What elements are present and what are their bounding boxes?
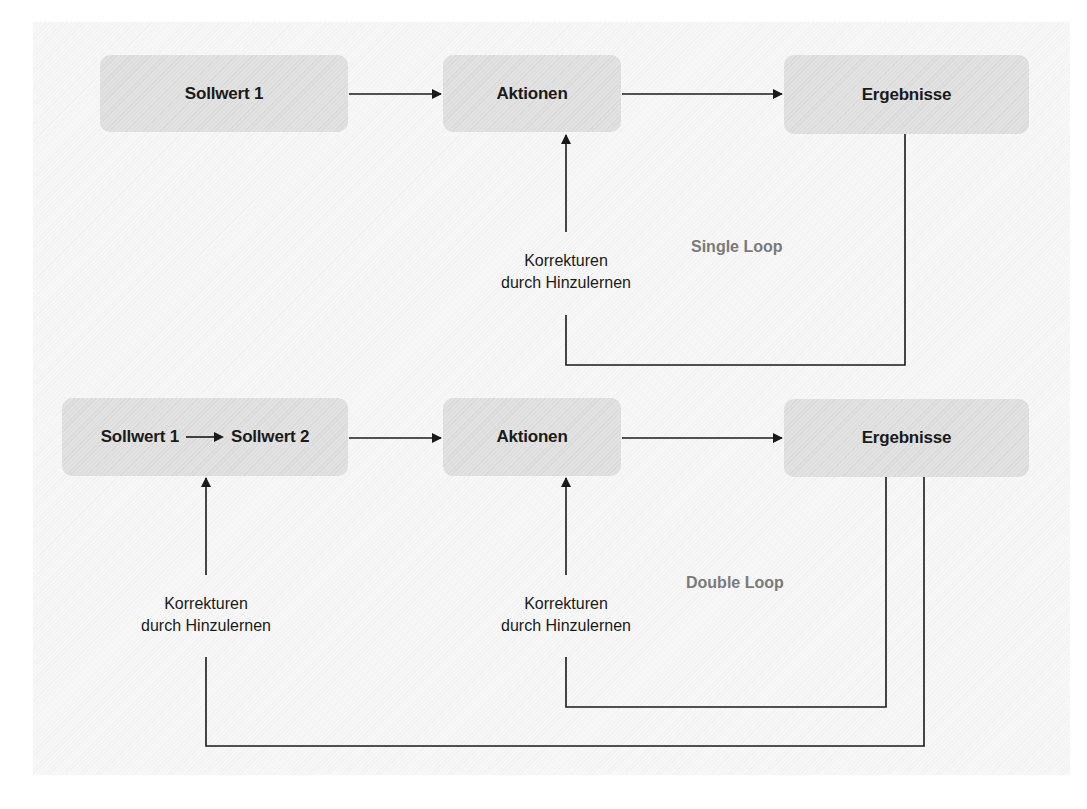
- node-label: Ergebnisse: [862, 428, 952, 448]
- node-setpoint-1: Sollwert 1: [100, 55, 348, 132]
- node-actions-2: Aktionen: [443, 398, 621, 476]
- node-label: Sollwert 1: [185, 84, 263, 104]
- node-label-to: Sollwert 2: [231, 427, 309, 447]
- node-results-1: Ergebnisse: [784, 55, 1029, 134]
- single-loop-feedback-label: Korrekturen durch Hinzulernen: [501, 250, 631, 294]
- arrow-right-icon: [185, 431, 225, 443]
- node-label: Aktionen: [496, 427, 567, 447]
- feedback-label-line1: Korrekturen: [141, 593, 271, 615]
- node-label: Ergebnisse: [862, 85, 952, 105]
- node-setpoint-1-to-2: Sollwert 1 Sollwert 2: [62, 398, 348, 476]
- node-actions-1: Aktionen: [443, 55, 621, 132]
- node-label: Aktionen: [496, 84, 567, 104]
- feedback-label-line2: durch Hinzulernen: [141, 615, 271, 637]
- feedback-label-line1: Korrekturen: [501, 593, 631, 615]
- node-label-from: Sollwert 1: [101, 427, 179, 447]
- feedback-label-line2: durch Hinzulernen: [501, 272, 631, 294]
- double-loop-title: Double Loop: [686, 574, 784, 592]
- feedback-label-line1: Korrekturen: [501, 250, 631, 272]
- node-results-2: Ergebnisse: [784, 399, 1029, 477]
- double-loop-inner-feedback-label: Korrekturen durch Hinzulernen: [501, 593, 631, 637]
- double-loop-outer-feedback-label: Korrekturen durch Hinzulernen: [141, 593, 271, 637]
- single-loop-title: Single Loop: [691, 238, 783, 256]
- feedback-label-line2: durch Hinzulernen: [501, 615, 631, 637]
